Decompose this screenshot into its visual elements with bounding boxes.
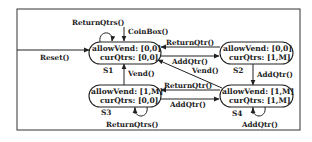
state-var-allowvend: allowVend: [0,0] [92,44,161,53]
transition-reset: Reset() [17,50,89,62]
state-name: S4 [232,109,242,118]
state-var-curqtrs: curQtrs: [1,M] [229,96,291,105]
transition-s3-s1-vend: Vend() [124,64,155,86]
state-diagram: Reset() ReturnQtrs() CoinBox() ReturnQtr… [0,0,312,142]
transition-s2-s4-addqtr: AddQtr() [253,63,293,85]
state-var-allowvend: allowVend: [0,0] [223,44,292,53]
transition-label: Vend() [191,66,219,75]
transition-s2-s1-returnqtr: ReturnQtr() [161,38,220,47]
transition-s1-coinbox: CoinBox() [124,27,168,41]
transition-label: ReturnQtrs() [106,120,158,129]
transition-s4-s3-returnqtr: ReturnQtr() [161,81,220,90]
transition-label: AddQtr() [171,57,208,66]
transition-label: Reset() [40,53,69,62]
state-var-curqtrs: curQtrs: [1,M] [229,53,291,62]
transition-label: ReturnQtr() [164,81,212,90]
state-name: S1 [103,66,113,75]
transition-label: AddQtr() [241,120,278,129]
transition-label: AddQtr() [256,70,293,79]
transition-s1-self-returnqtrs: ReturnQtrs() [72,18,124,42]
transition-s4-self-addqtr: AddQtr() [241,107,278,129]
state-var-curqtrs: curQtrs: [0,0] [100,53,158,62]
state-name: S3 [101,108,111,117]
state-s4: allowVend: [1,M] curQtrs: [1,M] S4 [220,85,294,118]
state-var-allowvend: allowVend: [1,M] [91,87,163,96]
transition-s3-s4-addqtr: AddQtr() [160,99,219,109]
transition-label: CoinBox() [128,27,168,36]
transition-label: Vend() [127,69,155,78]
transition-s3-self-returnqtrs: ReturnQtrs() [106,107,158,129]
state-var-curqtrs: curQtrs: [0,0] [100,96,158,105]
state-s3: allowVend: [1,M] curQtrs: [0,0] S3 [89,85,163,117]
state-name: S2 [233,66,243,75]
transition-label: AddQtr() [169,100,206,109]
state-var-allowvend: allowVend: [1,M] [222,87,294,96]
transition-label: ReturnQtrs() [72,18,124,27]
transition-label: ReturnQtr() [166,38,214,47]
